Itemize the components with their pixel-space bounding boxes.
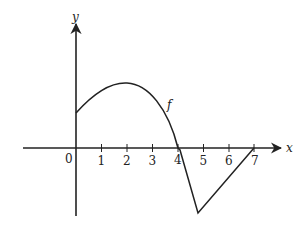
tick-label-0: 0 <box>65 152 73 166</box>
function-label-f: f <box>166 98 174 112</box>
y-axis-label: y <box>71 10 79 24</box>
tick-label-7: 7 <box>251 154 259 168</box>
curve-f-segments <box>178 148 254 213</box>
curve-f-arc <box>76 83 178 148</box>
tick-label-1: 1 <box>98 154 106 168</box>
tick-label-5: 5 <box>200 154 208 168</box>
tick-label-6: 6 <box>225 154 233 168</box>
function-graph: 0 1 2 3 4 5 6 7 x y f <box>0 0 308 239</box>
tick-label-3: 3 <box>149 154 157 168</box>
tick-label-2: 2 <box>123 154 131 168</box>
x-axis-label: x <box>286 141 293 155</box>
